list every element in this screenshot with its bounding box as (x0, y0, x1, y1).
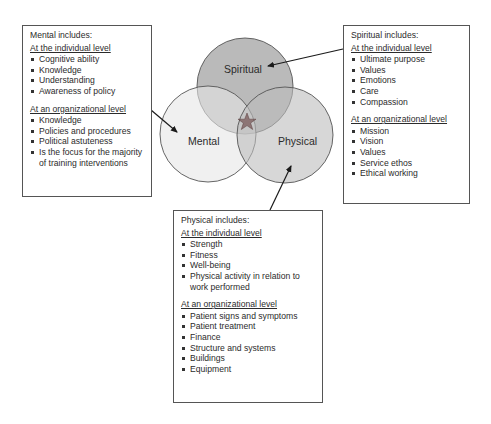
spiritual-box-title: Spiritual includes: (351, 30, 463, 41)
physical-organizational-list: Patient signs and symptomsPatient treatm… (181, 311, 316, 375)
list-item: Compassion (351, 97, 463, 108)
list-item: Service ethos (351, 158, 463, 169)
list-item: Ultimate purpose (351, 54, 463, 65)
list-item: Patient treatment (181, 321, 316, 332)
list-item: Values (351, 147, 463, 158)
physical-individual-list: StrengthFitnessWell-beingPhysical activi… (181, 239, 316, 292)
list-item: Buildings (181, 353, 316, 364)
list-item: Physical activity in relation to work pe… (181, 271, 316, 292)
list-item: Equipment (181, 364, 316, 375)
physical-info-box: Physical includes: At the individual lev… (173, 210, 323, 403)
physical-box-title: Physical includes: (181, 215, 316, 226)
mental-circle-label: Mental (188, 135, 220, 147)
spiritual-individual-list: Ultimate purposeValuesEmotionsCareCompas… (351, 54, 463, 107)
physical-organizational-heading: At an organizational level (181, 299, 316, 310)
list-item: Emotions (351, 75, 463, 86)
list-item: Finance (181, 332, 316, 343)
spiritual-circle-label: Spiritual (224, 63, 262, 75)
spiritual-info-box: Spiritual includes: At the individual le… (343, 25, 470, 204)
list-item: Knowledge (30, 65, 145, 76)
mental-organizational-heading: At an organizational level (30, 104, 145, 115)
spiritual-organizational-list: MissionVisionValuesService ethosEthical … (351, 126, 463, 179)
list-item: Knowledge (30, 115, 145, 126)
list-item: Strength (181, 239, 316, 250)
list-item: Ethical working (351, 168, 463, 179)
list-item: Structure and systems (181, 343, 316, 354)
venn-circles (160, 38, 333, 183)
list-item: Care (351, 86, 463, 97)
physical-circle-label: Physical (278, 135, 317, 147)
mental-individual-list: Cognitive abilityKnowledgeUnderstandingA… (30, 54, 145, 96)
list-item: Understanding (30, 75, 145, 86)
mental-organizational-list: KnowledgePolicies and proceduresPolitica… (30, 115, 145, 168)
mental-box-title: Mental includes: (30, 30, 145, 41)
mental-info-box: Mental includes: At the individual level… (22, 25, 152, 197)
list-item: Political astuteness (30, 136, 145, 147)
list-item: Values (351, 65, 463, 76)
physical-individual-heading: At the individual level (181, 228, 316, 239)
list-item: Policies and procedures (30, 126, 145, 137)
mental-individual-heading: At the individual level (30, 43, 145, 54)
list-item: Mission (351, 126, 463, 137)
list-item: Patient signs and symptoms (181, 311, 316, 322)
list-item: Vision (351, 136, 463, 147)
spiritual-individual-heading: At the individual level (351, 43, 463, 54)
list-item: Cognitive ability (30, 54, 145, 65)
list-item: Fitness (181, 250, 316, 261)
list-item: Well-being (181, 260, 316, 271)
list-item: Is the focus for the majority of trainin… (30, 147, 145, 168)
spiritual-organizational-heading: At an organizational level (351, 114, 463, 125)
list-item: Awareness of policy (30, 86, 145, 97)
